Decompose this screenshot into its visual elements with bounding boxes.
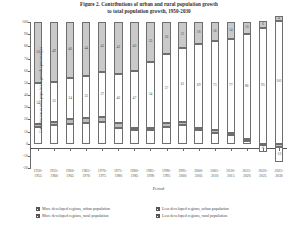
x-axis-label: 1960-1965 bbox=[62, 169, 78, 178]
segment-less-developed-rural[interactable] bbox=[50, 125, 58, 143]
segment-less-developed-rural[interactable] bbox=[66, 124, 74, 143]
segment-more-developed-urban[interactable]: 18 bbox=[194, 22, 202, 44]
segment-less-developed-urban[interactable]: 34 bbox=[66, 78, 74, 119]
segment-more-developed-rural[interactable] bbox=[130, 128, 138, 130]
segment-more-developed-urban[interactable]: 41 bbox=[98, 22, 106, 72]
segment-less-developed-rural[interactable] bbox=[98, 122, 106, 144]
segment-more-developed-rural[interactable] bbox=[82, 118, 90, 123]
segment-more-developed-urban[interactable]: 26 bbox=[162, 22, 170, 54]
segment-less-developed-rural[interactable] bbox=[211, 133, 219, 144]
segment-less-developed-urban[interactable]: 69 bbox=[194, 44, 202, 128]
bar-group[interactable]: 956-6 bbox=[259, 22, 267, 168]
segment-less-developed-urban[interactable]: 37 bbox=[98, 72, 106, 117]
bar-group[interactable]: 3349 bbox=[50, 22, 58, 168]
segment-more-developed-rural[interactable] bbox=[227, 133, 235, 135]
bar-value-label: 44 bbox=[84, 47, 88, 51]
segment-more-developed-rural[interactable] bbox=[162, 123, 170, 127]
segment-more-developed-rural[interactable] bbox=[194, 128, 202, 130]
bar-value-label: 37 bbox=[100, 93, 104, 97]
bar-group[interactable]: 4740 bbox=[130, 22, 138, 168]
segment-more-developed-urban[interactable]: 43 bbox=[114, 22, 122, 74]
legend-item[interactable]: More developed regions, rural population bbox=[36, 213, 109, 218]
bar-group[interactable]: 6918 bbox=[194, 22, 202, 168]
segment-more-developed-urban[interactable]: 46 bbox=[66, 22, 74, 78]
x-tick bbox=[118, 148, 119, 151]
segment-more-developed-urban[interactable]: 14 bbox=[227, 22, 235, 39]
segment-more-developed-rural[interactable] bbox=[50, 122, 58, 126]
segment-more-developed-urban[interactable]: 49 bbox=[50, 22, 58, 82]
segment-less-developed-rural[interactable] bbox=[162, 127, 170, 144]
bar-value-label: 40 bbox=[133, 45, 137, 49]
segment-more-developed-rural[interactable] bbox=[243, 139, 251, 141]
bar-value-label: 41 bbox=[100, 45, 104, 49]
bar-group[interactable]: 1014-12 bbox=[275, 22, 283, 168]
segment-more-developed-urban[interactable]: 4 bbox=[275, 16, 283, 21]
bar-value-label: 61 bbox=[181, 83, 185, 87]
segment-more-developed-rural[interactable] bbox=[66, 119, 74, 124]
segment-more-developed-rural[interactable] bbox=[178, 122, 186, 126]
segment-more-developed-urban[interactable]: 6 bbox=[259, 21, 267, 28]
bar-group[interactable]: 3446 bbox=[66, 22, 74, 168]
segment-more-developed-urban[interactable]: 40 bbox=[130, 22, 138, 71]
bar-group[interactable]: 7316 bbox=[211, 22, 219, 168]
legend-item[interactable]: More developed regions, urban population bbox=[36, 206, 110, 211]
y-tick-label: 20 bbox=[24, 117, 28, 121]
bar-value-label: 18 bbox=[197, 31, 201, 35]
segment-less-developed-urban[interactable]: 47 bbox=[130, 71, 138, 128]
segment-less-developed-rural[interactable] bbox=[178, 125, 186, 143]
bar-group[interactable]: 7714 bbox=[227, 22, 235, 168]
x-axis-label-line: 2005 bbox=[191, 174, 207, 179]
segment-less-developed-rural[interactable] bbox=[227, 135, 235, 144]
x-axis-label-line: 1960 bbox=[46, 174, 62, 179]
legend-item[interactable]: Less developed regions, rural population bbox=[156, 213, 227, 218]
x-tick bbox=[247, 148, 248, 151]
x-axis-label: 2020-2025 bbox=[255, 169, 271, 178]
x-axis-label: 2015-2020 bbox=[239, 169, 255, 178]
segment-more-developed-urban[interactable]: 33 bbox=[146, 22, 154, 62]
segment-less-developed-urban[interactable]: 73 bbox=[211, 41, 219, 130]
segment-more-developed-rural[interactable] bbox=[98, 117, 106, 122]
segment-less-developed-urban[interactable]: 77 bbox=[227, 39, 235, 133]
bar-group[interactable]: 6121 bbox=[178, 22, 186, 168]
segment-less-developed-rural[interactable] bbox=[243, 141, 251, 143]
segment-more-developed-urban[interactable]: 21 bbox=[178, 22, 186, 48]
legend-item[interactable]: Less developed regions, urban population bbox=[156, 206, 229, 211]
x-axis-label-line: 2015 bbox=[223, 174, 239, 179]
segment-less-developed-urban[interactable]: 33 bbox=[50, 82, 58, 122]
chart-title-line2: to total population growth, 1950-2030 bbox=[0, 8, 298, 15]
bar-value-label: 49 bbox=[52, 50, 56, 54]
bar-group[interactable]: 4043 bbox=[114, 22, 122, 168]
segment-more-developed-urban[interactable]: 16 bbox=[211, 22, 219, 41]
y-tick-label: 60 bbox=[24, 69, 28, 73]
legend-swatch-icon bbox=[36, 207, 40, 211]
x-axis-label: 2010-2015 bbox=[223, 169, 239, 178]
figure-container: Figure 2. Contributions of urban and rur… bbox=[0, 0, 298, 231]
bar-group[interactable]: 8610 bbox=[243, 22, 251, 168]
segment-more-developed-rural[interactable] bbox=[114, 123, 122, 128]
bar-group[interactable]: 3741 bbox=[98, 22, 106, 168]
segment-more-developed-rural[interactable] bbox=[146, 128, 154, 130]
legend-swatch-icon bbox=[156, 214, 160, 218]
bar-group[interactable]: 3544 bbox=[82, 22, 90, 168]
segment-less-developed-rural[interactable] bbox=[82, 123, 90, 144]
x-tick bbox=[54, 148, 55, 151]
bar-group[interactable]: 5433 bbox=[146, 22, 154, 168]
segment-more-developed-urban[interactable]: 10 bbox=[243, 22, 251, 34]
segment-less-developed-urban[interactable]: 101 bbox=[275, 21, 283, 144]
segment-less-developed-urban[interactable]: 61 bbox=[178, 48, 186, 122]
x-axis-label: 2005-2010 bbox=[207, 169, 223, 178]
bar-group[interactable]: 5726 bbox=[162, 22, 170, 168]
segment-less-developed-urban[interactable]: 54 bbox=[146, 62, 154, 128]
segment-more-developed-urban[interactable]: 44 bbox=[82, 22, 90, 76]
segment-less-developed-urban[interactable]: 35 bbox=[82, 76, 90, 119]
segment-less-developed-urban[interactable]: 95 bbox=[259, 28, 267, 144]
segment-less-developed-urban[interactable]: 57 bbox=[162, 54, 170, 123]
segment-less-developed-rural[interactable] bbox=[114, 128, 122, 144]
segment-less-developed-rural[interactable] bbox=[130, 130, 138, 143]
segment-less-developed-urban[interactable]: 40 bbox=[114, 74, 122, 123]
segment-less-developed-rural[interactable] bbox=[146, 130, 154, 143]
segment-less-developed-urban[interactable]: 86 bbox=[243, 34, 251, 139]
segment-less-developed-rural[interactable] bbox=[194, 130, 202, 143]
y-tick-label: 70 bbox=[24, 57, 28, 61]
segment-more-developed-rural[interactable] bbox=[211, 130, 219, 132]
